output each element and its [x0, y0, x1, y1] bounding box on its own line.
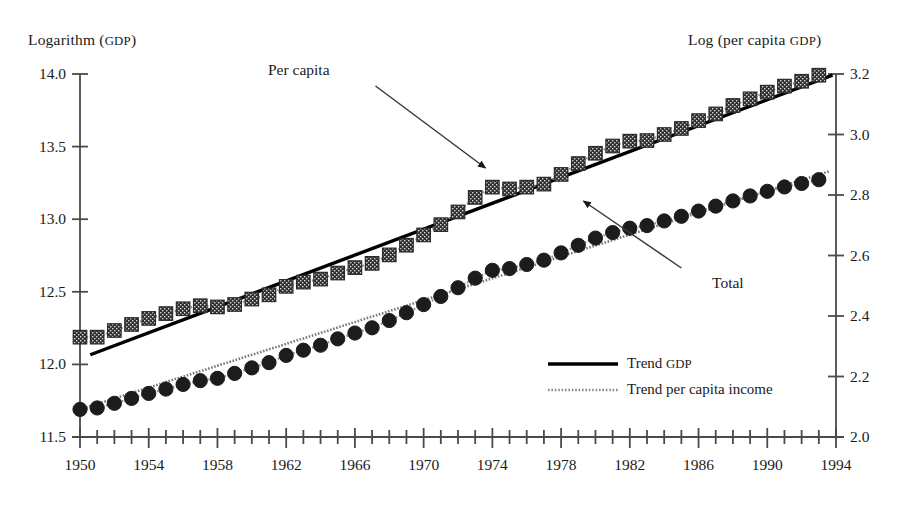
data-point-1-8 — [210, 371, 224, 385]
data-point-0-33 — [640, 134, 654, 148]
data-point-1-16 — [348, 326, 362, 340]
annotation-arrow-0 — [376, 86, 486, 168]
y-tick-label-right-2.4: 2.4 — [850, 307, 869, 325]
data-point-1-0 — [73, 402, 87, 416]
data-point-1-12 — [279, 348, 293, 362]
data-point-0-31 — [606, 139, 620, 153]
data-point-0-25 — [503, 182, 516, 196]
x-tick-label-1954: 1954 — [133, 456, 164, 474]
x-axis-ticks — [80, 428, 836, 448]
data-point-0-18 — [383, 248, 397, 262]
data-point-1-9 — [228, 366, 242, 380]
data-point-1-30 — [588, 231, 602, 245]
x-tick-label-1958: 1958 — [202, 456, 233, 474]
data-point-1-36 — [691, 204, 705, 218]
plot-canvas — [0, 0, 908, 513]
data-point-1-2 — [107, 396, 121, 410]
data-point-0-2 — [108, 324, 122, 338]
data-point-0-21 — [434, 218, 448, 232]
x-tick-label-1966: 1966 — [339, 456, 370, 474]
data-point-1-28 — [554, 246, 568, 260]
data-point-1-33 — [640, 218, 654, 232]
data-point-0-40 — [761, 85, 775, 99]
y-tick-label-right-3.0: 3.0 — [850, 126, 869, 144]
data-point-1-15 — [331, 332, 345, 346]
data-point-1-18 — [382, 313, 396, 327]
data-point-0-6 — [176, 302, 190, 316]
data-point-0-8 — [211, 300, 225, 314]
data-point-1-3 — [124, 391, 138, 405]
data-point-1-31 — [606, 225, 620, 239]
data-point-0-5 — [159, 307, 173, 321]
data-point-0-3 — [125, 318, 139, 332]
data-point-1-34 — [657, 214, 671, 228]
data-point-0-19 — [400, 238, 414, 252]
y-tick-label-left-11.5: 11.5 — [39, 428, 66, 446]
data-point-1-4 — [142, 386, 156, 400]
data-point-0-30 — [589, 147, 603, 161]
data-point-1-43 — [812, 173, 826, 187]
x-tick-label-1962: 1962 — [271, 456, 302, 474]
data-point-0-43 — [812, 68, 826, 82]
data-point-0-35 — [675, 122, 689, 136]
data-point-0-9 — [228, 298, 242, 312]
data-point-0-28 — [554, 168, 568, 182]
data-point-1-37 — [709, 199, 723, 213]
data-point-0-41 — [778, 79, 792, 93]
data-point-0-42 — [795, 75, 809, 89]
data-point-1-38 — [726, 194, 740, 208]
data-point-1-11 — [262, 356, 276, 370]
data-point-0-10 — [245, 292, 259, 306]
data-point-1-25 — [502, 261, 516, 275]
data-point-0-38 — [726, 99, 740, 113]
data-point-1-19 — [399, 306, 413, 320]
legend-keys — [548, 364, 618, 390]
x-tick-label-1974: 1974 — [477, 456, 508, 474]
data-point-1-22 — [451, 281, 465, 295]
data-point-1-40 — [760, 184, 774, 198]
data-point-0-22 — [451, 205, 465, 219]
data-point-0-24 — [486, 180, 500, 194]
data-point-0-32 — [623, 134, 637, 148]
data-point-1-6 — [176, 377, 190, 391]
series-connector-0 — [80, 75, 819, 337]
data-point-1-17 — [365, 321, 379, 335]
data-point-0-1 — [90, 330, 104, 344]
data-point-0-27 — [537, 177, 551, 191]
data-point-0-4 — [142, 312, 156, 326]
y-tick-label-left-12.5: 12.5 — [39, 283, 66, 301]
x-tick-label-1982: 1982 — [614, 456, 645, 474]
x-tick-label-1986: 1986 — [683, 456, 714, 474]
data-point-1-21 — [434, 289, 448, 303]
data-point-1-42 — [795, 176, 809, 190]
data-point-1-1 — [90, 401, 104, 415]
data-point-0-20 — [417, 228, 431, 242]
data-point-0-15 — [331, 266, 345, 280]
y-tick-label-left-12.0: 12.0 — [39, 355, 66, 373]
data-point-1-7 — [193, 374, 207, 388]
data-point-1-27 — [537, 253, 551, 267]
trend-lines — [80, 75, 833, 409]
y-tick-label-right-2.0: 2.0 — [850, 428, 869, 446]
data-point-1-13 — [296, 343, 310, 357]
series-markers — [73, 68, 826, 416]
x-tick-label-1978: 1978 — [546, 456, 577, 474]
data-point-1-20 — [417, 297, 431, 311]
data-point-1-29 — [571, 238, 585, 252]
data-point-0-29 — [572, 157, 586, 171]
x-tick-label-1990: 1990 — [752, 456, 783, 474]
data-point-0-13 — [297, 275, 311, 289]
y-tick-label-left-13.0: 13.0 — [39, 210, 66, 228]
chart-figure: Logarithm (GDP) Log (per capita GDP) Per… — [0, 0, 908, 513]
data-point-0-14 — [314, 272, 328, 286]
data-point-1-5 — [159, 382, 173, 396]
data-point-0-11 — [262, 288, 276, 302]
x-tick-label-1994: 1994 — [821, 456, 852, 474]
y-tick-label-right-2.2: 2.2 — [850, 368, 869, 386]
data-point-1-14 — [313, 338, 327, 352]
data-point-0-12 — [279, 280, 293, 294]
data-point-0-0 — [73, 330, 87, 344]
data-point-1-35 — [674, 209, 688, 223]
data-point-0-26 — [520, 180, 534, 194]
data-point-0-37 — [709, 107, 723, 121]
